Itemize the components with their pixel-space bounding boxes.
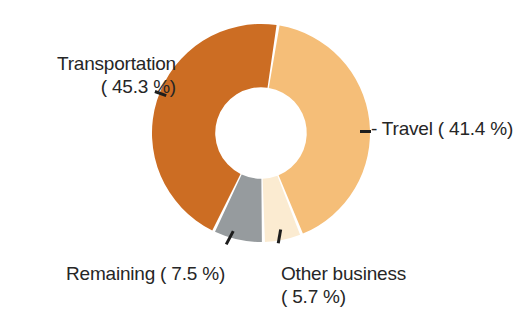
slice-label-transportation: Transportation ( 45.3 %) — [26, 52, 176, 98]
slice-label-remaining: Remaining ( 7.5 %) — [66, 262, 225, 285]
slice-label-transportation-value: ( 45.3 %) — [26, 75, 176, 98]
slice-label-other-business: Other business ( 5.7 %) — [281, 262, 406, 308]
slice-label-other-business-name: Other business — [281, 262, 406, 285]
slice-label-other-business-value: ( 5.7 %) — [281, 285, 406, 308]
slice-label-travel-text: - Travel ( 41.4 %) — [371, 117, 513, 140]
slice-label-travel: - Travel ( 41.4 %) — [371, 117, 513, 140]
leader-line-travel — [360, 130, 371, 133]
slice-label-transportation-name: Transportation — [26, 52, 176, 75]
donut-slices-group — [152, 24, 370, 242]
slice-label-remaining-text: Remaining ( 7.5 %) — [66, 262, 225, 285]
